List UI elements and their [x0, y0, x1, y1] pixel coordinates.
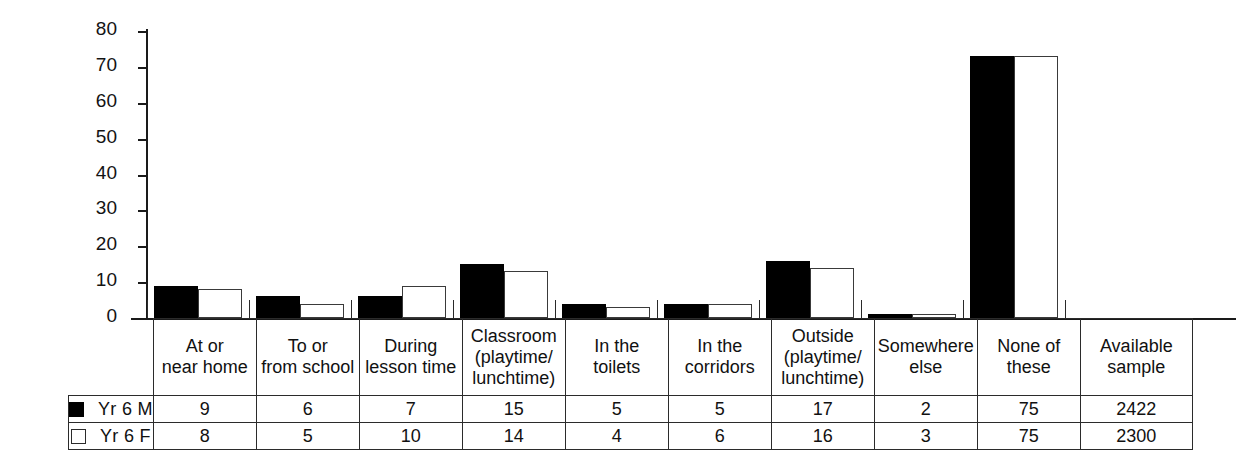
bar-yr6f-2: [402, 286, 446, 318]
cell-value: 15: [462, 396, 565, 423]
column-header-line: near home: [154, 357, 256, 378]
column-header-line: else: [875, 357, 977, 378]
column-header-line: At or: [154, 336, 256, 357]
cell-value: 6: [668, 423, 771, 450]
bar-yr6m-8: [970, 56, 1014, 318]
column-header-2: Duringlesson time: [359, 319, 462, 396]
bars-layer: [0, 0, 1245, 318]
column-header-line: Classroom: [463, 326, 565, 347]
legend-item-yr-6-m[interactable]: Yr 6 M: [69, 396, 154, 423]
column-header-4: In thetoilets: [565, 319, 668, 396]
cell-value: 2: [874, 396, 977, 423]
cell-value: 6: [256, 396, 359, 423]
column-header-line: toilets: [566, 357, 668, 378]
bar-yr6f-6: [810, 268, 854, 318]
cell-value: 8: [153, 423, 256, 450]
bar-yr6f-0: [198, 289, 242, 318]
header-legend-spacer: [69, 319, 154, 396]
column-header-line: sample: [1081, 357, 1192, 378]
column-header-0: At ornear home: [153, 319, 256, 396]
column-header-line: corridors: [669, 357, 771, 378]
legend-label: Yr 6 M: [98, 399, 153, 420]
bar-yr6f-5: [708, 304, 752, 318]
column-header-line: (playtime/: [463, 347, 565, 368]
column-header-line: Somewhere: [875, 336, 977, 357]
column-header-line: (playtime/: [772, 347, 874, 368]
column-header-3: Classroom(playtime/lunchtime): [462, 319, 565, 396]
column-header-line: During: [360, 336, 462, 357]
data-table-wrapper: At ornear homeTo orfrom schoolDuringless…: [0, 318, 1245, 475]
legend-item-yr-6-f[interactable]: Yr 6 F: [69, 423, 154, 450]
cell-value: 75: [977, 423, 1080, 450]
column-header-line: In the: [566, 336, 668, 357]
column-header-6: Outside(playtime/lunchtime): [771, 319, 874, 396]
bar-yr6m-1: [256, 296, 300, 318]
legend-swatch-hollow-icon: [71, 429, 86, 444]
bar-yr6m-0: [154, 286, 198, 318]
cell-value: 5: [668, 396, 771, 423]
bar-yr6f-1: [300, 304, 344, 318]
table-row: Yr 6 M9671555172752422: [69, 396, 1193, 423]
cell-value: 16: [771, 423, 874, 450]
plot-area: 01020304050607080: [0, 0, 1245, 322]
legend-swatch-filled-icon: [69, 402, 84, 417]
legend-label: Yr 6 F: [100, 426, 151, 447]
column-header-line: lunchtime): [463, 368, 565, 389]
cell-value: 4: [565, 423, 668, 450]
column-header-7: Somewhereelse: [874, 319, 977, 396]
column-header-line: In the: [669, 336, 771, 357]
bar-yr6m-2: [358, 296, 402, 318]
column-header-line: None of these: [978, 336, 1080, 378]
table-row: Yr 6 F85101446163752300: [69, 423, 1193, 450]
data-table: At ornear homeTo orfrom schoolDuringless…: [68, 318, 1193, 450]
cell-value: 14: [462, 423, 565, 450]
column-header-line: from school: [257, 357, 359, 378]
bar-yr6f-8: [1014, 56, 1058, 318]
bar-yr6m-6: [766, 261, 810, 318]
cell-value: 5: [565, 396, 668, 423]
cell-available-sample: 2300: [1080, 423, 1192, 450]
column-header-5: In thecorridors: [668, 319, 771, 396]
cell-value: 9: [153, 396, 256, 423]
bar-yr6m-5: [664, 304, 708, 318]
bar-yr6m-3: [460, 264, 504, 318]
cell-value: 7: [359, 396, 462, 423]
bar-yr6f-4: [606, 307, 650, 318]
column-header-1: To orfrom school: [256, 319, 359, 396]
column-header-line: lesson time: [360, 357, 462, 378]
chart-figure: 01020304050607080 At ornear homeTo orfro…: [0, 0, 1245, 475]
column-header-line: To or: [257, 336, 359, 357]
cell-value: 5: [256, 423, 359, 450]
bar-yr6m-4: [562, 304, 606, 318]
column-header-line: Available: [1081, 336, 1192, 357]
cell-value: 10: [359, 423, 462, 450]
cell-value: 17: [771, 396, 874, 423]
column-header-available-sample: Availablesample: [1080, 319, 1192, 396]
cell-value: 75: [977, 396, 1080, 423]
cell-available-sample: 2422: [1080, 396, 1192, 423]
bar-yr6f-3: [504, 271, 548, 318]
column-header-8: None of these: [977, 319, 1080, 396]
column-header-line: lunchtime): [772, 368, 874, 389]
column-header-line: Outside: [772, 326, 874, 347]
table-header-row: At ornear homeTo orfrom schoolDuringless…: [69, 319, 1193, 396]
cell-value: 3: [874, 423, 977, 450]
